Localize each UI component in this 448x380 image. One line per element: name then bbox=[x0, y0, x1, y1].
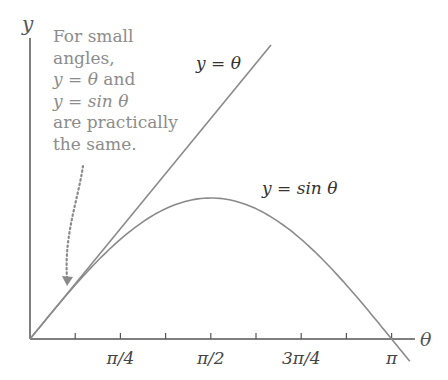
annotation-line: and bbox=[98, 69, 135, 89]
annotation-text: For small angles, y = θ and y = sin θ ar… bbox=[53, 26, 178, 155]
annotation-line: y = sin θ bbox=[53, 91, 128, 111]
tick-label-pi-over-4: π/4 bbox=[106, 348, 135, 368]
annotation-line: y = θ bbox=[53, 69, 98, 89]
label-y-equals-theta: y = θ bbox=[195, 53, 241, 73]
annotation-line: are practically bbox=[53, 112, 178, 132]
x-ticks bbox=[75, 333, 391, 339]
dotted-arrow bbox=[67, 166, 83, 278]
label-y-equals-sin-theta: y = sin θ bbox=[261, 178, 337, 198]
annotation-line: For small bbox=[53, 26, 133, 46]
tick-label-pi-over-2: π/2 bbox=[196, 348, 225, 368]
tick-label-pi: π bbox=[385, 348, 398, 368]
annotation-line: the same. bbox=[53, 134, 137, 154]
tick-label-3pi-over-4: 3π/4 bbox=[282, 348, 321, 368]
arrowhead-icon bbox=[62, 276, 73, 286]
annotation-line: angles, bbox=[53, 48, 115, 68]
y-axis-label: y bbox=[21, 12, 34, 36]
curve-sin-theta bbox=[30, 198, 410, 361]
x-axis-label: θ bbox=[420, 328, 432, 350]
